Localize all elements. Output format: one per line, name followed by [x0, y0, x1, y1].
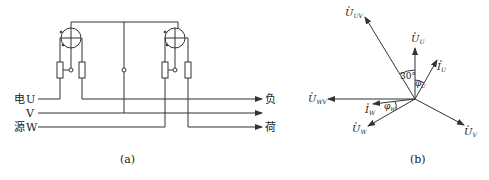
circuit-diagram [38, 22, 262, 127]
wattmeter-1 [57, 28, 85, 99]
source-label-top: 电 [14, 93, 25, 106]
label-u-v: UV [464, 126, 477, 138]
caption-a: (a) [120, 153, 135, 166]
phi-w-label: φW [384, 101, 396, 112]
label-u-w: UW [352, 123, 367, 135]
label-i-u: IU [436, 61, 447, 73]
caption-b: (b) [410, 153, 426, 166]
load-label-bottom: 荷 [265, 121, 276, 134]
phase-u-label: U [26, 93, 35, 106]
wattmeter-diagram: 电 U V 源 W 负 荷 (a) UUV UU IU UWV IW UW UV… [0, 0, 489, 180]
load-label-top: 负 [265, 92, 276, 106]
phase-v-label: V [25, 107, 35, 120]
vector-u-uv [365, 17, 415, 99]
label-u-wv: UWV [308, 93, 328, 105]
label-i-w: IW [364, 104, 376, 116]
wattmeter-2 [162, 28, 191, 127]
angle-30-label: 30° [400, 71, 416, 81]
vector-i-w [373, 99, 415, 104]
phase-w-label: W [26, 121, 38, 134]
phasor-labels: UUV UU IU UWV IW UW UV 30° φU φW (b) [308, 7, 477, 166]
vector-u-v [415, 99, 464, 125]
label-u-u: UU [411, 33, 425, 45]
phi-u-label: φU [415, 78, 426, 89]
label-u-uv: UUV [345, 7, 363, 19]
circuit-labels: 电 U V 源 W 负 荷 (a) [14, 92, 276, 166]
source-label-bottom: 源 [14, 120, 25, 134]
